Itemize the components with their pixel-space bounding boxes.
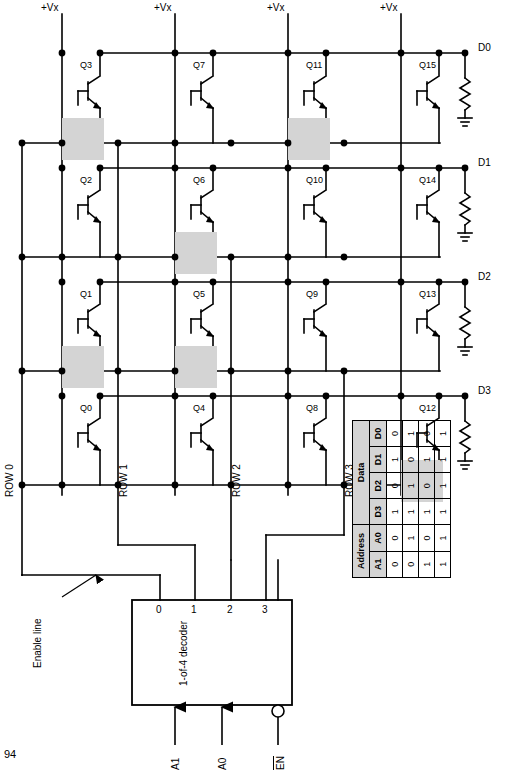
data-label-d0: D0: [478, 42, 491, 53]
transistor-label-q9: Q9: [306, 289, 318, 299]
data-label-d1: D1: [478, 157, 491, 168]
data-label-d3: D3: [478, 385, 491, 396]
cell: 1: [387, 447, 403, 473]
row-label-1: ROW 1: [118, 464, 129, 497]
transistor-label-q10: Q10: [306, 175, 323, 185]
cell: 0: [387, 473, 403, 499]
enable-bubble: [272, 705, 284, 717]
row-label-2: ROW 2: [231, 464, 242, 497]
cell: 1: [403, 473, 419, 499]
supply-label-1: +Vx: [154, 2, 172, 13]
transistor-label-q7: Q7: [193, 60, 205, 70]
cell: 1: [435, 499, 451, 525]
col-header-d2: D2: [370, 473, 387, 499]
cell: 0: [387, 525, 403, 551]
cell: 0: [419, 525, 435, 551]
table-row: 1 1 1 1 1 1: [435, 421, 451, 578]
cell: 1: [419, 447, 435, 473]
cell: 0: [419, 421, 435, 447]
cell: 1: [419, 551, 435, 577]
transistor-label-q4: Q4: [193, 403, 205, 413]
decoder-input-a1: A1: [170, 758, 181, 770]
decoder-pin-0: 0: [156, 604, 162, 615]
table-row: 0 1 1 1 0 1: [403, 421, 419, 578]
decoder-pin-1: 1: [191, 604, 197, 615]
decoder-pin-3: 3: [262, 604, 268, 615]
table-row: 0 0 1 0 1 0: [387, 421, 403, 578]
supply-label-2: +Vx: [267, 2, 285, 13]
cell: 1: [387, 499, 403, 525]
transistor-label-q5: Q5: [193, 289, 205, 299]
transistor-label-q15: Q15: [419, 60, 436, 70]
cell: 1: [403, 421, 419, 447]
col-header-d3: D3: [370, 499, 387, 525]
cell: 1: [435, 525, 451, 551]
transistor-label-q2: Q2: [80, 175, 92, 185]
transistor-label-q3: Q3: [80, 60, 92, 70]
cell: 1: [403, 499, 419, 525]
page-root: 94: [0, 0, 510, 773]
decoder-enable-label: EN: [273, 756, 286, 770]
table-column-header-row: A1 A0 D3 D2 D1 D0: [370, 421, 387, 578]
decoder-name: 1-of-4 decoder: [177, 621, 190, 686]
cell: 1: [435, 421, 451, 447]
transistor-label-q8: Q8: [306, 403, 318, 413]
transistor-label-q6: Q6: [193, 175, 205, 185]
cell: 0: [387, 421, 403, 447]
decoder-pin-2: 2: [227, 604, 233, 615]
cell: 1: [419, 499, 435, 525]
cell: 1: [435, 473, 451, 499]
decoder-input-a0: A0: [217, 758, 228, 770]
cell: 0: [403, 447, 419, 473]
cell: 1: [435, 447, 451, 473]
cell: 0: [403, 551, 419, 577]
data-label-d2: D2: [478, 271, 491, 282]
transistor-label-q12: Q12: [419, 403, 436, 413]
truth-table: Address Data A1 A0 D3 D2 D1 D0 0 0 1 0 1…: [352, 420, 451, 578]
cell: 1: [403, 525, 419, 551]
cell: 0: [419, 473, 435, 499]
row-label-0: ROW 0: [4, 464, 15, 497]
group-header-data: Data: [353, 421, 370, 525]
supply-label-3: +Vx: [380, 2, 398, 13]
table-header-group-row: Address Data: [353, 421, 370, 578]
truth-table-wrapper: Address Data A1 A0 D3 D2 D1 D0 0 0 1 0 1…: [352, 420, 451, 578]
col-header-d1: D1: [370, 447, 387, 473]
transistor-label-q11: Q11: [306, 60, 322, 70]
col-header-a1: A1: [370, 551, 387, 577]
cell: 0: [387, 551, 403, 577]
col-header-a0: A0: [370, 525, 387, 551]
col-header-d0: D0: [370, 421, 387, 447]
enable-line-annotation: Enable line: [32, 619, 44, 669]
transistor-label-q1: Q1: [80, 289, 92, 299]
cell: 1: [435, 551, 451, 577]
group-header-address: Address: [353, 525, 370, 578]
supply-label-0: +Vx: [41, 2, 59, 13]
transistor-label-q0: Q0: [80, 403, 92, 413]
transistor-label-q13: Q13: [419, 289, 436, 299]
rom-array-schematic: [0, 0, 510, 773]
transistor-label-q14: Q14: [419, 175, 436, 185]
table-row: 1 0 1 0 1 0: [419, 421, 435, 578]
decoder-box: [132, 600, 292, 705]
